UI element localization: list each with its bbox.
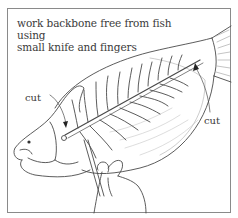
knife-illustration <box>84 140 104 196</box>
instruction-caption: work backbone free from fish using small… <box>17 17 187 53</box>
fish-belly-outline <box>82 76 214 174</box>
caption-line-2: small knife and fingers <box>17 41 187 53</box>
fish-head-icon <box>14 120 90 177</box>
fish-eye-icon <box>27 140 30 143</box>
caption-line-1: work backbone free from fish using <box>17 17 187 41</box>
cut-label-right: cut <box>204 115 220 126</box>
cut-label-left: cut <box>25 92 41 103</box>
backbone-illustration <box>62 55 204 158</box>
tail-fin-icon <box>212 26 231 82</box>
